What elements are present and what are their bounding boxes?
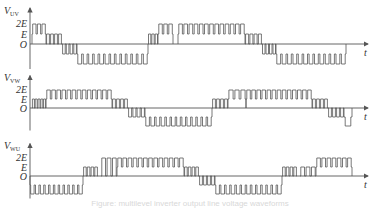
y-axis-label: VVW bbox=[4, 72, 20, 84]
y-axis-label: VWU bbox=[4, 140, 21, 152]
x-axis-label: t bbox=[364, 111, 367, 122]
x-axis-label: t bbox=[364, 47, 367, 58]
panel-wu: VWU2EEOt bbox=[4, 140, 368, 198]
panel-uv: VUV2EEOt bbox=[4, 5, 368, 69]
tick-label-2e: 2E bbox=[16, 18, 27, 29]
waveform-diagram: VUV2EEOtVVW2EEOtVWU2EEOt Figure: multile… bbox=[0, 0, 379, 212]
x-axis-label: t bbox=[364, 179, 367, 190]
panel-vw: VVW2EEOt bbox=[4, 72, 368, 130]
tick-label-o: O bbox=[20, 39, 27, 50]
y-axis-label: VUV bbox=[4, 5, 19, 17]
tick-label-o: O bbox=[20, 171, 27, 182]
tick-label-o: O bbox=[20, 103, 27, 114]
figure-caption: Figure: multilevel inverter output line … bbox=[91, 199, 288, 208]
